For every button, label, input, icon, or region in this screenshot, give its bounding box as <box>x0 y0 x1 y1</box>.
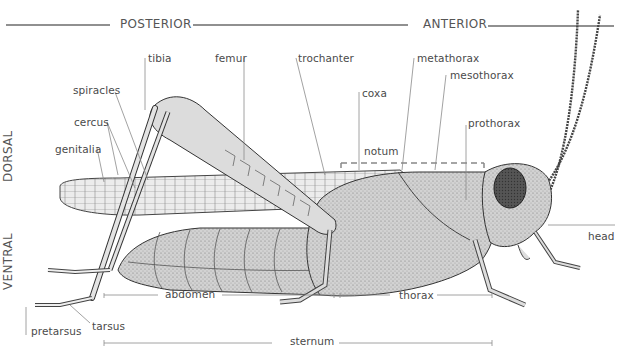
head-label: head <box>588 230 615 242</box>
femur-label: femur <box>215 52 247 64</box>
trochanter-label: trochanter <box>298 52 354 64</box>
tibia-label: tibia <box>148 52 172 64</box>
mesothorax-label: mesothorax <box>450 69 514 81</box>
cercus-label: cercus <box>74 116 109 128</box>
coxa-label: coxa <box>362 87 387 99</box>
grasshopper-anatomy-diagram: POSTERIOR ANTERIOR DORSAL VENTRAL tibia … <box>0 0 625 347</box>
dorsal-label: DORSAL <box>1 130 15 182</box>
thorax-label: thorax <box>399 289 434 301</box>
orientation-axis-lines <box>6 25 614 26</box>
notum-label: notum <box>364 145 399 157</box>
ventral-label: VENTRAL <box>1 233 15 290</box>
metathorax-label: metathorax <box>417 52 479 64</box>
antennae <box>542 10 600 195</box>
sternum-label: sternum <box>290 335 334 347</box>
posterior-label: POSTERIOR <box>120 17 192 31</box>
prothorax-label: prothorax <box>468 117 520 129</box>
notum-bracket <box>341 163 484 168</box>
abdomen-body <box>118 228 331 295</box>
anterior-label: ANTERIOR <box>423 17 487 31</box>
compound-eye <box>494 168 526 208</box>
spiracles-label: spiracles <box>73 84 120 96</box>
genitalia-label: genitalia <box>55 143 101 155</box>
thorax-body <box>307 172 498 296</box>
pretarsus-label: pretarsus <box>31 325 82 337</box>
tarsus-label: tarsus <box>92 320 125 332</box>
abdomen-label: abdomen <box>165 288 215 300</box>
